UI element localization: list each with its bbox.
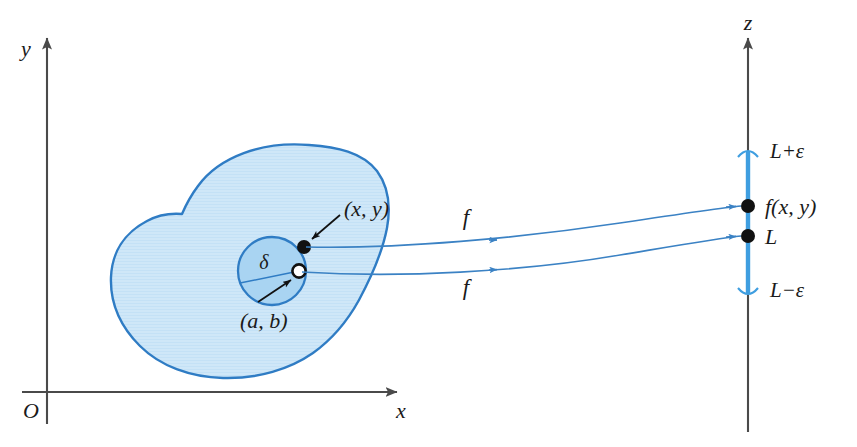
x-axis-label: x — [395, 398, 406, 423]
origin-label: O — [23, 398, 39, 423]
limit-definition-diagram: y x O δ (x, y) (a, b) f f — [0, 0, 857, 447]
point-ab-dot — [292, 264, 305, 277]
map-curve-upper-arrowhead-end — [726, 206, 736, 207]
limit-L-dot — [741, 229, 755, 243]
map-curve-lower-arrowhead-end — [726, 236, 736, 237]
domain-plane-group: y x O δ (x, y) (a, b) — [19, 36, 406, 424]
upper-bound-label: L+ε — [769, 139, 805, 163]
limit-L-label: L — [764, 224, 777, 249]
lower-bound-label: L−ε — [769, 278, 805, 302]
delta-label: δ — [259, 251, 269, 273]
z-axis-label: z — [743, 10, 753, 35]
map-label-f-upper: f — [463, 205, 473, 230]
point-xy-label: (x, y) — [344, 196, 389, 221]
map-label-f-lower: f — [463, 275, 473, 300]
y-axis-label: y — [19, 36, 31, 61]
value-fxy-label: f(x, y) — [765, 194, 816, 219]
point-ab-label: (a, b) — [240, 308, 288, 333]
value-fxy-dot — [741, 199, 755, 213]
range-axis-group: z L+ε L−ε f(x, y) L — [738, 10, 816, 432]
